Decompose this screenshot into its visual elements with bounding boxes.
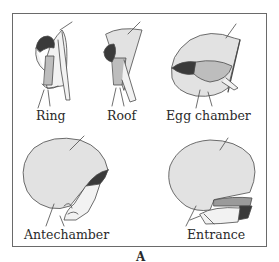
stage-label-entrance: Entrance <box>187 229 245 242</box>
stage-label-antechamber: Antechamber <box>24 229 109 242</box>
panel-label: A <box>136 250 145 262</box>
nest-building-illustration <box>0 0 279 262</box>
stage-label-egg-chamber: Egg chamber <box>166 110 251 123</box>
antechamber-stage-illustration <box>23 136 108 226</box>
entrance-stage-illustration <box>169 138 255 226</box>
egg-chamber-stage-illustration <box>171 24 240 108</box>
stage-label-roof: Roof <box>107 110 136 123</box>
roof-stage-illustration <box>104 22 142 106</box>
stage-label-ring: Ring <box>36 110 65 123</box>
ring-stage-illustration <box>36 22 72 108</box>
